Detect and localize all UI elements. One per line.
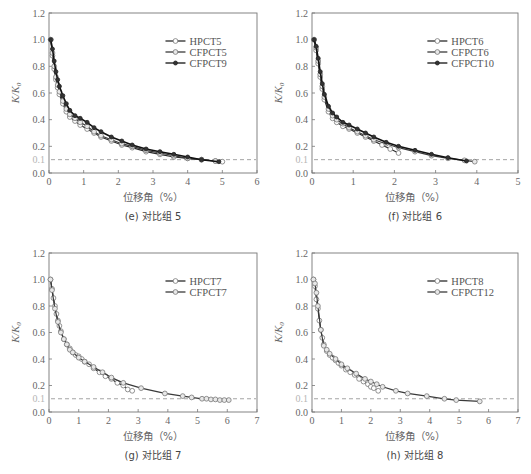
data-point <box>186 155 190 159</box>
legend-marker <box>435 39 440 44</box>
data-point <box>397 144 401 148</box>
legend-item: CFPCT12 <box>427 287 494 298</box>
y-tick-label: 0.2 <box>296 141 309 152</box>
x-axis-label: 位移角（%） <box>385 191 445 203</box>
data-point <box>61 337 66 342</box>
data-point <box>374 382 379 387</box>
legend-marker <box>435 50 440 55</box>
legend-item: HPCT8 <box>427 276 483 287</box>
y-tick-label: 0.4 <box>33 354 46 365</box>
data-point <box>312 38 316 42</box>
y-tick-label: 1.0 <box>296 274 309 285</box>
data-point <box>78 116 82 120</box>
data-point <box>68 108 72 112</box>
chart-panel-e: 0.00.20.40.60.81.01.20.10123456HPCT5CFPC… <box>10 8 260 223</box>
data-point <box>64 342 69 347</box>
data-point <box>92 126 96 130</box>
legend-label: HPCT8 <box>451 276 483 287</box>
data-point <box>314 44 318 48</box>
series-line-hpct8 <box>314 280 379 391</box>
data-point <box>52 59 56 63</box>
y-tick-label: 0.0 <box>33 407 46 418</box>
y-tick-label: 0.8 <box>33 301 46 312</box>
data-point <box>54 70 58 74</box>
panel-caption: (e) 对比组 5 <box>125 210 182 222</box>
data-point <box>331 111 335 115</box>
legend-item: HPCT7 <box>165 276 221 287</box>
data-point <box>316 56 320 60</box>
data-point <box>380 384 385 389</box>
x-tick-label: 7 <box>516 415 521 426</box>
legend-item: HPCT5 <box>165 36 221 47</box>
data-point <box>99 130 103 134</box>
data-point <box>189 395 194 400</box>
data-point <box>64 102 68 106</box>
data-point <box>82 359 87 364</box>
x-tick-label: 0 <box>310 176 315 187</box>
x-tick-label: 7 <box>255 415 260 426</box>
data-point <box>213 397 218 402</box>
y-tick-label: 0.4 <box>296 114 309 125</box>
data-point <box>314 290 319 295</box>
legend-item: HPCT6 <box>427 36 483 47</box>
x-tick-label: 2 <box>392 176 397 187</box>
data-point <box>339 362 344 367</box>
x-axis-label: 位移角（%） <box>385 430 445 442</box>
y-tick-label: 0.6 <box>33 88 46 99</box>
data-point <box>57 84 61 88</box>
data-point <box>355 127 359 131</box>
x-tick-label: 5 <box>195 415 200 426</box>
y-axis-label: K/K0 <box>273 82 286 104</box>
data-point <box>335 115 339 119</box>
data-point <box>320 82 324 86</box>
data-point <box>121 380 126 385</box>
legend-marker <box>435 61 439 65</box>
y-axis-label-sub: 0 <box>15 322 23 326</box>
y-tick-label: 0.8 <box>296 301 309 312</box>
data-point <box>477 399 482 404</box>
data-point <box>109 375 114 380</box>
chart-panel-h: 0.00.20.40.60.81.01.20.101234567HPCT8CFP… <box>273 248 521 462</box>
y-axis-label-sub: 0 <box>15 82 23 86</box>
chart-figure: 0.00.20.40.60.81.01.20.10123456HPCT5CFPC… <box>0 0 531 474</box>
x-tick-label: 3 <box>136 415 141 426</box>
x-tick-label: 6 <box>255 176 260 187</box>
data-point <box>100 370 105 375</box>
x-tick-label: 5 <box>220 176 225 187</box>
data-point <box>204 396 209 401</box>
data-point <box>345 366 350 371</box>
panel-caption: (h) 对比组 8 <box>387 449 444 461</box>
data-point <box>172 152 176 156</box>
legend-marker <box>173 50 178 55</box>
data-point <box>313 281 318 286</box>
legend-label: CFPCT7 <box>189 287 226 298</box>
x-tick-label: 6 <box>486 415 491 426</box>
legend-marker <box>173 290 178 295</box>
legend-label: HPCT6 <box>451 36 483 47</box>
data-point <box>368 379 373 384</box>
legend-marker <box>173 61 177 65</box>
data-point <box>85 120 89 124</box>
y-tick-label: 0.6 <box>296 327 309 338</box>
data-point <box>49 38 53 42</box>
data-point <box>326 104 330 108</box>
data-point <box>424 394 429 399</box>
data-point <box>357 376 362 381</box>
y-tick-label: 0.4 <box>33 114 46 125</box>
data-point <box>318 327 323 332</box>
data-point <box>226 398 231 403</box>
x-tick-label: 1 <box>351 176 356 187</box>
y-tick-label: 1.2 <box>33 248 46 259</box>
legend-label: CFPCT5 <box>189 47 226 58</box>
data-point <box>200 158 204 162</box>
data-point <box>139 386 144 391</box>
x-tick-label: 4 <box>474 176 479 187</box>
y-tick-label: 1.0 <box>33 274 46 285</box>
y-axis-label: K/K0 <box>10 82 23 104</box>
x-tick-label: 0 <box>310 415 315 426</box>
y-tick-label: 0.2 <box>296 380 309 391</box>
y-axis-label: K/K0 <box>10 322 23 344</box>
x-tick-label: 2 <box>106 415 111 426</box>
data-point <box>109 135 113 139</box>
data-point <box>120 139 124 143</box>
